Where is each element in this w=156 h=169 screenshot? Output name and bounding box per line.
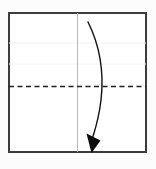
- fold-diagram-canvas: [0, 0, 156, 169]
- fold-diagram-figure: [0, 0, 156, 169]
